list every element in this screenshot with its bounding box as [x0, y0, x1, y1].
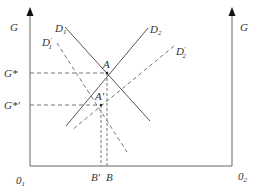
left-axis-arrow-icon [27, 7, 34, 16]
point-a-prime [100, 104, 103, 107]
curve-d1-prime [57, 43, 127, 152]
label-g-star-prime: G*′ [4, 99, 20, 111]
label-d1: D1 [54, 22, 66, 36]
right-axis-arrow-icon [229, 7, 236, 16]
label-a: A [102, 58, 110, 70]
label-d2: D2 [149, 23, 162, 37]
origin-right: 02 [238, 170, 248, 184]
label-b: B [106, 171, 113, 183]
origin-left: 01 [16, 174, 25, 186]
label-b-prime: B′ [91, 171, 101, 183]
point-a [106, 72, 109, 75]
equilibrium-diagram: G G 01 02 D1 D2 D′1 D′2 A A′ G* G*′ B′ B [0, 0, 255, 186]
right-axis-label: G [240, 21, 248, 33]
label-d1-prime: D′1 [41, 36, 52, 51]
left-axis-label: G [10, 21, 18, 33]
label-a-prime: A′ [94, 90, 105, 102]
label-d2-prime: D′2 [175, 45, 186, 60]
label-g-star: G* [4, 67, 18, 79]
